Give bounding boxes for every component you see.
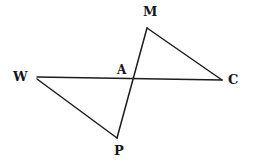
- segment-wp: [37, 79, 117, 138]
- segment-wc: [37, 77, 222, 80]
- geometry-figure: WCMPA: [0, 0, 254, 165]
- segment-mp: [117, 28, 147, 138]
- vertex-label-m: M: [143, 5, 157, 18]
- vertex-label-c: C: [228, 73, 238, 86]
- segment-mc: [147, 28, 222, 80]
- vertex-label-w: W: [13, 70, 28, 83]
- segment-group: [37, 28, 222, 138]
- vertex-label-p: P: [114, 144, 124, 157]
- vertex-label-a: A: [117, 64, 126, 76]
- figure-canvas: [0, 0, 254, 165]
